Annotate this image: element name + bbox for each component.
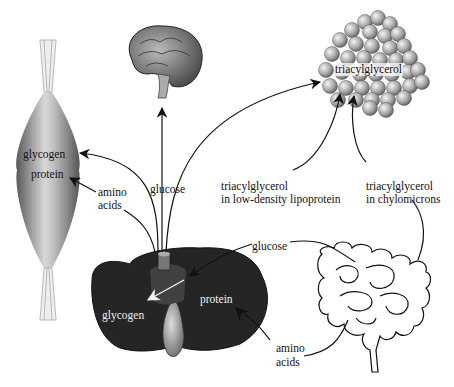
ldl-label-1: triacylglycerol (221, 180, 288, 193)
liver-amino-acids-label-2: acids (98, 199, 122, 212)
gut-amino-acids-label-1: amino (276, 342, 305, 355)
liver-glucose-label: glucose (150, 183, 185, 196)
chylomicrons-label-2: in chylomicrons (366, 193, 440, 206)
chylomicrons-label-1: triacylglycerol (366, 180, 433, 193)
liver-amino-acids-label-1: amino (98, 186, 127, 199)
intestine-illustration (318, 242, 431, 372)
liver-glycogen-label: glycogen (102, 309, 144, 322)
adipose-triacylglycerol-label: triacylglycerol (334, 63, 403, 76)
brain-illustration (129, 26, 202, 98)
gut-glucose-label: glucose (252, 240, 287, 253)
muscle-glycogen-label: glycogen (23, 148, 65, 161)
liver-illustration (92, 248, 268, 357)
gut-amino-acids-label-2: acids (276, 356, 300, 369)
liver-protein-label: protein (200, 293, 233, 306)
ldl-label-2: in low-density lipoprotein (221, 193, 340, 206)
muscle-protein-label: protein (31, 168, 64, 181)
